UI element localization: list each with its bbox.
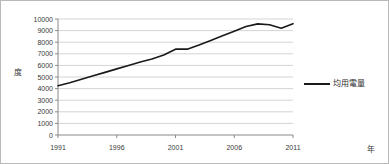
y-axis-tick-label: 8000 (21, 39, 53, 46)
y-axis-tick-label: 4000 (21, 85, 53, 92)
y-axis-tick-label: 5000 (21, 74, 53, 81)
x-axis-tick-label: 2001 (156, 144, 196, 151)
y-axis-tick-label: 6000 (21, 62, 53, 69)
x-axis-title: 年 (367, 146, 375, 154)
y-axis-tick-label: 10000 (21, 16, 53, 23)
y-axis-tick-label: 2000 (21, 108, 53, 115)
x-axis-tick-label: 1996 (97, 144, 137, 151)
x-axis-tick-label: 2006 (214, 144, 254, 151)
y-axis-tick-label: 3000 (21, 97, 53, 104)
chart-figure: 0100020003000400050006000700080009000100… (0, 0, 389, 164)
y-axis-tick-label: 0 (21, 132, 53, 139)
x-axis-tick-label: 1991 (38, 144, 78, 151)
data-series-line (58, 24, 293, 86)
legend-line-swatch (304, 83, 330, 85)
y-axis-tick-label: 1000 (21, 120, 53, 127)
y-axis-tick-label: 7000 (21, 50, 53, 57)
chart-legend: 均用電量 (304, 80, 365, 88)
y-axis-title: 度 (14, 69, 22, 77)
legend-label: 均用電量 (333, 80, 365, 88)
x-axis-tick-label: 2011 (273, 144, 313, 151)
y-axis-tick-label: 9000 (21, 27, 53, 34)
